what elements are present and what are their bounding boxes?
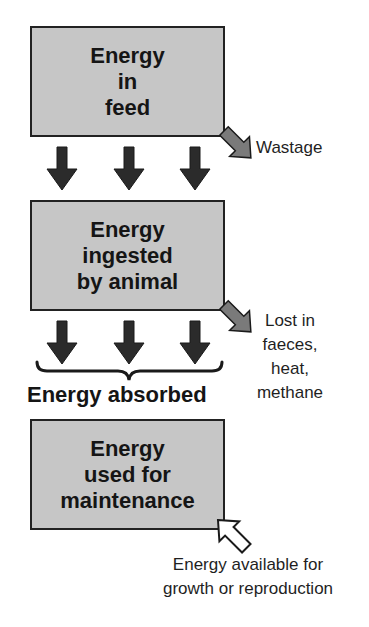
box-feed-line-1: Energy [90, 43, 165, 69]
down-arrow-icon [114, 147, 144, 190]
energy-available-label: Energy available for growth or reproduct… [148, 553, 348, 601]
box-feed-line-3: feed [105, 95, 150, 121]
box-maintenance-line-1: Energy [90, 436, 165, 462]
curly-brace-icon [37, 362, 222, 380]
energy-maintenance-box: Energy used for maintenance [30, 419, 225, 530]
wastage-line-1: Wastage [256, 136, 322, 160]
lost-line-3: heat, [248, 357, 332, 381]
lost-label: Lost in faeces, heat, methane [248, 309, 332, 405]
box-feed-line-2: in [118, 69, 138, 95]
box-maintenance-line-3: maintenance [60, 488, 195, 514]
available-line-2: growth or reproduction [148, 577, 348, 601]
available-line-1: Energy available for [148, 553, 348, 577]
box-maintenance-line-2: used for [84, 462, 171, 488]
down-arrow-icon [180, 147, 210, 190]
down-arrow-icon [114, 321, 144, 364]
energy-ingested-box: Energy ingested by animal [30, 200, 225, 311]
down-arrow-icon [47, 147, 77, 190]
lost-line-1: Lost in [248, 309, 332, 333]
box-ingested-line-1: Energy [90, 217, 165, 243]
wastage-label: Wastage [256, 136, 322, 160]
box-ingested-line-2: ingested [82, 243, 172, 269]
lost-line-2: faeces, [248, 333, 332, 357]
energy-absorbed-label: Energy absorbed [27, 382, 207, 408]
box-ingested-line-3: by animal [77, 269, 178, 295]
energy-in-feed-box: Energy in feed [30, 26, 225, 137]
lost-line-4: methane [248, 381, 332, 405]
down-arrow-icon [180, 321, 210, 364]
down-arrow-icon [47, 321, 77, 364]
